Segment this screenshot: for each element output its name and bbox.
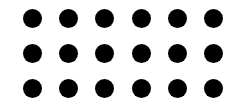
- dot-r3-c2: [59, 79, 78, 98]
- dot-r1-c1: [23, 9, 42, 28]
- dot-r1-c2: [59, 9, 78, 28]
- dot-r2-c4: [132, 44, 151, 63]
- dot-r3-c5: [168, 79, 187, 98]
- dot-r2-c1: [23, 44, 42, 63]
- dot-r3-c3: [95, 79, 114, 98]
- dot-r2-c3: [95, 44, 114, 63]
- dot-r1-c3: [95, 9, 114, 28]
- dot-r1-c5: [168, 9, 187, 28]
- dot-r2-c5: [168, 44, 187, 63]
- dot-grid: [0, 0, 236, 103]
- dot-r3-c1: [23, 79, 42, 98]
- dot-r2-c6: [204, 44, 223, 63]
- dot-r1-c4: [132, 9, 151, 28]
- dot-r3-c6: [204, 79, 223, 98]
- dot-r2-c2: [59, 44, 78, 63]
- dot-r1-c6: [204, 9, 223, 28]
- dot-r3-c4: [132, 79, 151, 98]
